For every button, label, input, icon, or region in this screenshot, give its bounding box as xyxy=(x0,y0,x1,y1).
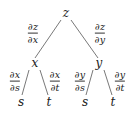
numerator: ∂x xyxy=(10,70,20,80)
node-x: x xyxy=(32,57,39,69)
edge-label-dx-dt: ∂x ∂t xyxy=(50,70,60,93)
denominator: ∂t xyxy=(116,82,125,92)
edge-label-dy-dt: ∂y ∂t xyxy=(115,70,125,93)
node-z: z xyxy=(63,7,69,19)
node-x-s: s xyxy=(18,96,24,108)
numerator: ∂z xyxy=(28,22,38,32)
node-y-s: s xyxy=(82,96,88,108)
edge-y-s xyxy=(86,70,93,95)
numerator: ∂y xyxy=(75,70,85,80)
edge-label-dz-dy: ∂z ∂y xyxy=(95,22,105,45)
node-y: y xyxy=(96,57,103,69)
edge-label-dy-ds: ∂y ∂s xyxy=(75,70,85,93)
denominator: ∂s xyxy=(10,82,20,92)
edge-x-s xyxy=(22,70,29,95)
denominator: ∂t xyxy=(51,82,60,92)
edge-label-dz-dx: ∂z ∂x xyxy=(28,22,38,45)
denominator: ∂y xyxy=(95,34,105,44)
denominator: ∂s xyxy=(75,82,85,92)
edge-x-t xyxy=(40,70,48,95)
numerator: ∂y xyxy=(115,70,125,80)
node-y-t: t xyxy=(111,96,116,108)
numerator: ∂z xyxy=(95,22,105,32)
edge-y-t xyxy=(104,70,112,95)
edge-z-x xyxy=(35,20,61,58)
denominator: ∂x xyxy=(28,34,38,44)
numerator: ∂x xyxy=(50,70,60,80)
node-x-t: t xyxy=(47,96,52,108)
edge-label-dx-ds: ∂x ∂s xyxy=(10,70,20,93)
